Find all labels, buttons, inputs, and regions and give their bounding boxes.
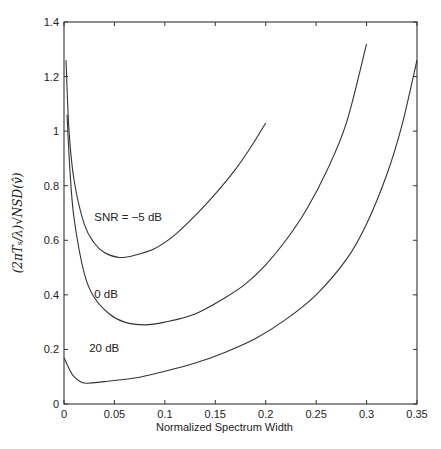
chart: 00.050.10.150.20.250.30.35 00.20.40.60.8… [0, 0, 441, 449]
x-tick-label: 0.15 [205, 408, 226, 420]
x-tick-label: 0.05 [104, 408, 125, 420]
x-tick-label: 0.2 [258, 408, 273, 420]
y-tick-label: 0.6 [44, 234, 59, 246]
curve-annotation: 20 dB [89, 342, 119, 354]
annotations: SNR = −5 dB0 dB20 dB [89, 211, 162, 354]
y-tick-label: 1 [53, 125, 59, 137]
x-tick-label: 0.3 [359, 408, 374, 420]
y-axis-label: (2πTₛ/λ)√NSD(v̂) [11, 172, 25, 273]
y-tick-label: 0.4 [44, 289, 59, 301]
x-tick-label: 0.35 [406, 408, 427, 420]
y-tick-label: 1.2 [44, 71, 59, 83]
x-axis-label: Normalized Spectrum Width [156, 421, 293, 433]
curve-annotation: SNR = −5 dB [94, 211, 162, 223]
x-tick-label: 0.25 [305, 408, 326, 420]
y-tick-label: 1.4 [44, 16, 59, 28]
curve-annotation: 0 dB [94, 288, 118, 300]
y-tick-label: 0.8 [44, 180, 59, 192]
y-tick-label: 0.2 [44, 343, 59, 355]
x-tick-label: 0.1 [157, 408, 172, 420]
y-tick-label: 0 [53, 398, 59, 410]
series-line-snr-0db [67, 44, 367, 325]
x-tick-label: 0 [61, 408, 67, 420]
series-line-snr-minus5db [66, 60, 266, 257]
